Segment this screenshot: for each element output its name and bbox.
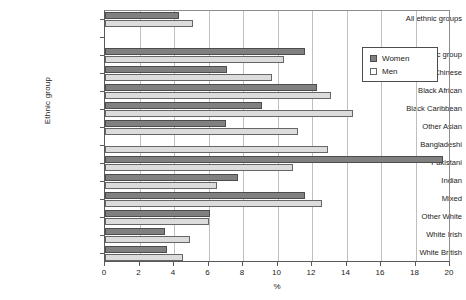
x-tick-mark [104, 262, 105, 266]
x-tick-label: 14 [334, 268, 358, 277]
bar-women [105, 192, 305, 199]
x-tick-label: 6 [196, 268, 220, 277]
bar-chart: Ethnic group % All ethnic groupsOther et… [0, 0, 466, 300]
bar-women [105, 48, 305, 55]
x-tick-label: 18 [403, 268, 427, 277]
legend-swatch-men-icon [370, 68, 377, 75]
legend-label-men: Men [382, 67, 398, 76]
bar-men [105, 110, 353, 117]
bar-men [105, 182, 217, 189]
x-tick-mark [173, 262, 174, 266]
bar-men [105, 146, 328, 153]
bar-row [105, 210, 449, 228]
bar-women [105, 228, 165, 235]
x-tick-mark [242, 262, 243, 266]
bar-men [105, 164, 293, 171]
bar-men [105, 236, 190, 243]
bar-men [105, 92, 331, 99]
x-axis-title: % [104, 282, 450, 291]
x-tick-label: 20 [437, 268, 461, 277]
x-tick-mark [311, 262, 312, 266]
x-tick-mark [139, 262, 140, 266]
bar-row [105, 138, 449, 156]
bar-men [105, 20, 193, 27]
bar-women [105, 174, 238, 181]
bar-row [105, 84, 449, 102]
x-tick-label: 4 [161, 268, 185, 277]
x-tick-mark [346, 262, 347, 266]
x-tick-label: 12 [299, 268, 323, 277]
bar-women [105, 120, 226, 127]
bar-row [105, 174, 449, 192]
bar-men [105, 128, 298, 135]
bar-women [105, 102, 262, 109]
x-tick-mark [415, 262, 416, 266]
x-tick-label: 2 [127, 268, 151, 277]
x-tick-mark [208, 262, 209, 266]
bar-men [105, 56, 284, 63]
bar-men [105, 200, 322, 207]
legend-item-women: Women [370, 52, 437, 65]
bar-men [105, 74, 272, 81]
bar-women [105, 84, 317, 91]
x-tick-label: 16 [368, 268, 392, 277]
legend-item-men: Men [370, 65, 437, 78]
bar-women [105, 210, 210, 217]
bar-women [105, 66, 227, 73]
x-tick-label: 10 [265, 268, 289, 277]
bar-men [105, 254, 183, 261]
y-axis-title: Ethnic group [43, 56, 52, 146]
bar-row [105, 102, 449, 120]
x-tick-label: 8 [230, 268, 254, 277]
x-tick-mark [277, 262, 278, 266]
bar-women [105, 12, 179, 19]
legend-label-women: Women [382, 54, 409, 63]
bar-row [105, 12, 449, 30]
bar-row [105, 120, 449, 138]
x-tick-mark [380, 262, 381, 266]
bar-men [105, 218, 209, 225]
bar-women [105, 246, 167, 253]
bar-row [105, 156, 449, 174]
bar-women [105, 156, 443, 163]
bar-row [105, 192, 449, 210]
bar-row [105, 30, 449, 48]
bar-row [105, 228, 449, 246]
x-tick-mark [449, 262, 450, 266]
legend: Women Men [362, 47, 438, 82]
x-tick-label: 0 [92, 268, 116, 277]
legend-swatch-women-icon [370, 55, 377, 62]
